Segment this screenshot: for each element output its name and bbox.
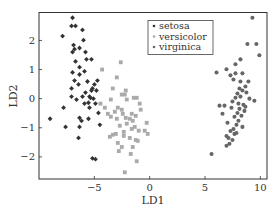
virginica-point <box>240 125 244 129</box>
y-axis-label: LD2 <box>7 84 20 107</box>
virginica-point <box>232 115 236 119</box>
versicolor-point <box>124 116 128 120</box>
setosa-point <box>77 124 82 129</box>
virginica-point <box>217 104 221 108</box>
versicolor-point <box>130 112 134 116</box>
setosa-point <box>95 78 100 83</box>
virginica-point <box>226 136 230 140</box>
setosa-point <box>96 111 101 116</box>
virginica-point <box>233 96 237 100</box>
virginica-point <box>236 119 240 123</box>
virginica-point <box>242 109 246 113</box>
versicolor-point <box>131 145 135 149</box>
x-tick-label: 10 <box>254 182 267 193</box>
setosa-point <box>69 86 74 91</box>
virginica-point <box>240 71 244 75</box>
setosa-point <box>77 46 82 51</box>
virginica-point <box>232 132 236 136</box>
versicolor-point <box>99 102 103 106</box>
setosa-point <box>76 136 81 141</box>
legend-label-versicolor: versicolor <box>158 31 207 42</box>
setosa-point <box>60 34 65 39</box>
virginica-point <box>239 114 243 118</box>
setosa-point <box>83 50 88 55</box>
y-tick-label: −1 <box>20 122 35 133</box>
virginica-point <box>243 84 247 88</box>
setosa-point <box>84 57 89 62</box>
setosa-point <box>70 15 75 20</box>
virginica-point <box>238 79 242 83</box>
y-tick-label: −2 <box>20 151 35 162</box>
virginica-point <box>237 86 241 90</box>
series-versicolor <box>99 60 150 174</box>
setosa-point <box>63 124 68 129</box>
legend: setosaversicolorvirginica <box>148 20 213 55</box>
versicolor-point <box>138 102 142 106</box>
virginica-point <box>234 123 238 127</box>
versicolor-point <box>123 170 127 174</box>
virginica-point <box>237 107 241 111</box>
virginica-point <box>230 100 234 104</box>
versicolor-point <box>106 112 110 116</box>
virginica-point <box>231 77 235 81</box>
setosa-point <box>71 43 76 48</box>
virginica-point <box>229 106 233 110</box>
versicolor-point <box>120 108 124 112</box>
versicolor-point <box>115 75 119 79</box>
virginica-point <box>224 144 228 148</box>
setosa-point <box>82 69 87 74</box>
virginica-point <box>254 42 258 46</box>
versicolor-point <box>124 89 128 93</box>
virginica-point <box>235 91 239 95</box>
lda-scatter-chart: −50510 −2−1012 LD1 LD2 setosaversicolorv… <box>0 0 277 212</box>
setosa-point <box>76 82 81 87</box>
setosa-point <box>86 116 91 121</box>
virginica-point <box>238 57 242 61</box>
versicolor-point <box>108 135 112 139</box>
versicolor-point <box>129 152 133 156</box>
versicolor-point <box>134 114 138 118</box>
virginica-point <box>224 67 228 71</box>
legend-marker-versicolor <box>153 35 156 38</box>
virginica-point <box>236 102 240 106</box>
virginica-point <box>222 104 226 108</box>
virginica-point <box>247 97 251 101</box>
setosa-point <box>94 88 99 93</box>
setosa-point <box>80 28 85 33</box>
versicolor-point <box>135 159 139 163</box>
setosa-point <box>93 101 98 106</box>
versicolor-point <box>115 117 119 121</box>
versicolor-point <box>111 87 115 91</box>
setosa-point <box>92 82 97 87</box>
setosa-point <box>73 59 78 64</box>
x-tick-label: 5 <box>202 182 208 193</box>
virginica-point <box>230 138 234 142</box>
versicolor-point <box>122 134 126 138</box>
versicolor-point <box>119 60 123 64</box>
versicolor-point <box>103 106 107 110</box>
versicolor-point <box>125 122 129 126</box>
versicolor-point <box>137 129 141 133</box>
setosa-point <box>85 79 90 84</box>
setosa-point <box>97 122 102 127</box>
setosa-point <box>73 23 78 28</box>
setosa-point <box>77 65 82 70</box>
virginica-point <box>238 95 242 99</box>
versicolor-point <box>139 108 143 112</box>
versicolor-point <box>116 141 120 145</box>
versicolor-point <box>130 127 134 131</box>
setosa-point <box>77 72 82 77</box>
series-setosa <box>48 15 103 161</box>
setosa-point <box>70 70 75 75</box>
virginica-point <box>220 112 224 116</box>
versicolor-point <box>135 96 139 100</box>
x-tick-label: −5 <box>87 182 102 193</box>
setosa-point <box>81 38 86 43</box>
virginica-point <box>210 152 214 156</box>
versicolor-point <box>121 112 125 116</box>
versicolor-point <box>145 121 149 125</box>
virginica-point <box>243 105 247 109</box>
legend-marker-virginica <box>153 46 156 49</box>
x-axis-label: LD1 <box>141 194 164 207</box>
setosa-point <box>74 97 79 102</box>
